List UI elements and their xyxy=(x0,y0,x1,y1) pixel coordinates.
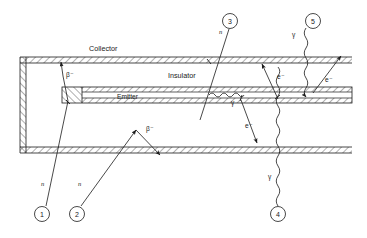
label-neutron-3: n xyxy=(219,28,223,35)
callout-4[interactable]: 4 xyxy=(271,207,286,222)
label-neutron-1: n xyxy=(41,180,45,187)
label-electron-3: e⁻ xyxy=(245,122,253,129)
particle-interaction-diagram: Collector Insulator Emitter n n β⁻ β⁻ n xyxy=(0,0,367,238)
emitter-label: Emitter xyxy=(117,93,139,100)
label-gamma-4: γ xyxy=(268,173,272,181)
label-electron-4: e⁻ xyxy=(277,73,285,80)
callout-3-label: 3 xyxy=(228,18,232,25)
collector-label: Collector xyxy=(89,44,118,53)
label-electron-5: e⁻ xyxy=(325,76,333,83)
callout-1[interactable]: 1 xyxy=(35,207,50,222)
callout-1-label: 1 xyxy=(40,211,44,218)
insulator-label: Insulator xyxy=(168,71,196,80)
label-beta-1: β⁻ xyxy=(66,71,74,79)
callout-2[interactable]: 2 xyxy=(70,207,85,222)
label-neutron-2: n xyxy=(78,180,82,187)
left-wall xyxy=(20,57,26,153)
label-gamma-5: γ xyxy=(292,31,296,39)
path-label-group: n n β⁻ β⁻ n γ e⁻ e⁻ γ γ e⁻ xyxy=(41,28,333,187)
bottom-wall xyxy=(20,147,352,153)
callout-4-label: 4 xyxy=(276,211,280,218)
path-1-neutron-beta xyxy=(46,62,70,206)
callout-group: 1 2 3 4 5 xyxy=(35,14,321,222)
path-4-gamma-electron xyxy=(262,64,280,206)
collector-bar xyxy=(20,57,352,63)
callout-5-label: 5 xyxy=(311,18,315,25)
callout-3[interactable]: 3 xyxy=(223,14,238,29)
callout-5[interactable]: 5 xyxy=(306,14,321,29)
callout-2-label: 2 xyxy=(75,211,79,218)
emitter-bar xyxy=(62,87,352,103)
label-beta-2: β⁻ xyxy=(146,125,154,133)
path-2-neutron-beta xyxy=(81,130,160,206)
